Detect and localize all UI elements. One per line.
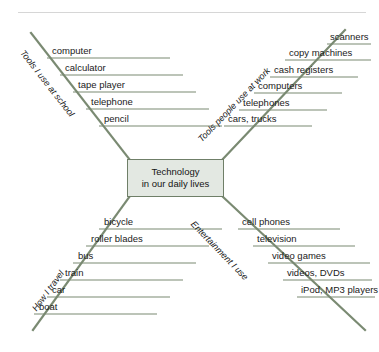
rib-label: tape player xyxy=(78,80,125,90)
fishbone-diagram: Technology in our daily lives Tools I us… xyxy=(0,0,379,352)
rib-label: iPod, MP3 players xyxy=(301,285,378,295)
rib-label: cash registers xyxy=(274,65,333,75)
rib-label: cars, trucks xyxy=(228,114,277,124)
rib-label: telephones xyxy=(243,98,289,108)
rib-label: car xyxy=(52,285,65,295)
rib-label: computer xyxy=(52,46,92,56)
rib-label: television xyxy=(257,234,297,244)
rib-label: calculator xyxy=(65,63,106,73)
rib-label: videos, DVDs xyxy=(287,268,345,278)
rib-label: telephone xyxy=(91,97,133,107)
rib-label: computers xyxy=(258,81,302,91)
center-topic-line2: in our daily lives xyxy=(142,178,210,190)
rib-label: scanners xyxy=(330,32,369,42)
rib-label: pencil xyxy=(104,114,129,124)
center-topic-box: Technology in our daily lives xyxy=(127,159,224,197)
rib-label: boat xyxy=(39,302,58,312)
rib-label: video games xyxy=(272,251,326,261)
rib-label: cell phones xyxy=(242,217,290,227)
rib-label: roller blades xyxy=(91,234,143,244)
rib-label: copy machines xyxy=(289,48,352,58)
rib-label: train xyxy=(65,268,83,278)
rib-label: bus xyxy=(78,251,93,261)
center-topic-line1: Technology xyxy=(151,166,199,178)
rib-label: bicycle xyxy=(104,217,133,227)
